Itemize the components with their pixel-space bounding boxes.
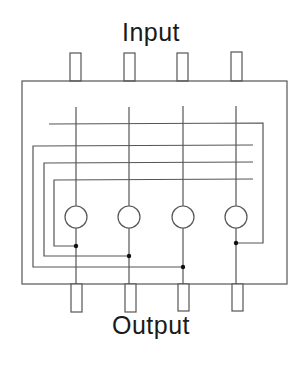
output-pin-4 xyxy=(232,284,243,311)
crossbar-diagram xyxy=(0,0,308,366)
junction-dot-1 xyxy=(74,244,78,248)
junction-dot-4 xyxy=(234,241,238,245)
junction-dot-2 xyxy=(127,254,131,258)
input-pin-4 xyxy=(231,52,242,81)
neuron-3 xyxy=(172,206,194,228)
neuron-2 xyxy=(118,206,140,228)
input-pin-2 xyxy=(124,53,135,81)
neuron-1 xyxy=(65,206,87,228)
neuron-4 xyxy=(225,206,247,228)
network-box xyxy=(22,81,287,284)
junction-dot-3 xyxy=(181,265,185,269)
output-pin-2 xyxy=(125,284,136,312)
input-pin-1 xyxy=(70,53,81,81)
output-pin-1 xyxy=(71,284,82,312)
output-pin-3 xyxy=(178,284,189,311)
input-pin-3 xyxy=(177,53,188,81)
